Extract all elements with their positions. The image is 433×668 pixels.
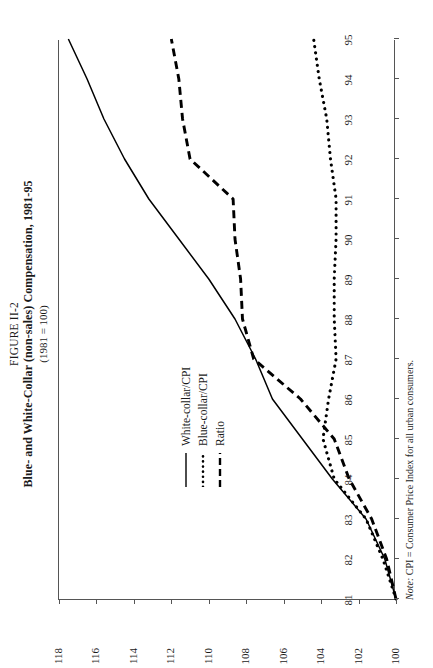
- y-axis-label: 114: [127, 648, 139, 664]
- y-axis-label: 116: [89, 648, 101, 664]
- x-axis-label: 86: [342, 395, 354, 406]
- x-axis-label: 87: [342, 355, 354, 366]
- x-axis-label: 82: [342, 555, 354, 566]
- x-axis-label: 93: [342, 115, 354, 126]
- note-label: Note:: [404, 578, 415, 600]
- figure-title-block: FIGURE II-2 Blue- and White-Collar (non-…: [8, 0, 49, 668]
- y-axis-label: 100: [389, 648, 401, 665]
- y-axis-label: 106: [277, 648, 289, 665]
- x-axis-label: 91: [342, 195, 354, 206]
- figure-subtitle: (1981 = 100): [37, 0, 49, 668]
- x-axis-label: 89: [342, 275, 354, 286]
- x-axis-label: 90: [342, 235, 354, 246]
- y-axis-label: 110: [202, 648, 214, 664]
- y-axis-tick: [396, 599, 397, 604]
- y-axis-label: 112: [164, 648, 176, 664]
- rotated-page-wrapper: FIGURE II-2 Blue- and White-Collar (non-…: [0, 0, 433, 668]
- x-axis-label: 88: [342, 315, 354, 326]
- x-axis-tick: [394, 38, 399, 39]
- figure-number: FIGURE II-2: [8, 0, 20, 668]
- figure-note: Note: CPI = Consumer Price Index for all…: [404, 360, 415, 600]
- x-axis-label: 94: [342, 75, 354, 86]
- y-axis-label: 108: [239, 648, 251, 665]
- x-axis-label: 95: [342, 35, 354, 46]
- figure-title: Blue- and White-Collar (non-sales) Compe…: [21, 0, 36, 668]
- figure-page: FIGURE II-2 Blue- and White-Collar (non-…: [0, 0, 433, 668]
- y-axis-label: 118: [52, 648, 64, 664]
- x-axis-label: 84: [342, 475, 354, 486]
- x-axis-label: 85: [342, 435, 354, 446]
- x-axis-label: 83: [342, 515, 354, 526]
- y-axis-label: 102: [352, 648, 364, 665]
- y-axis-label: 104: [314, 648, 326, 665]
- x-axis-label: 81: [342, 595, 354, 606]
- x-axis-label: 92: [342, 155, 354, 166]
- note-text: CPI = Consumer Price Index for all urban…: [404, 360, 415, 575]
